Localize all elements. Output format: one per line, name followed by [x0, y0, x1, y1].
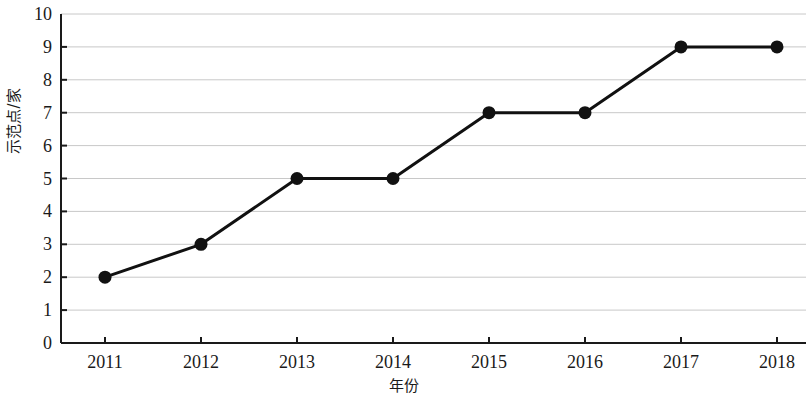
x-axis-title: 年份	[0, 374, 808, 395]
data-point-marker	[291, 172, 304, 185]
data-point-marker	[483, 106, 496, 119]
data-point-marker	[99, 271, 112, 284]
data-point-marker	[771, 40, 784, 53]
series-markers	[99, 40, 784, 283]
plot-area	[0, 0, 808, 402]
data-point-marker	[579, 106, 592, 119]
data-point-marker	[387, 172, 400, 185]
data-point-marker	[195, 238, 208, 251]
line-chart: 示范点/家 012345678910 201120122013201420152…	[0, 0, 808, 402]
data-point-marker	[675, 40, 688, 53]
gridlines	[61, 14, 806, 310]
